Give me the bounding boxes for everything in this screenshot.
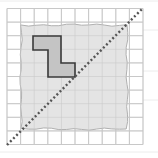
grid-diagram: [0, 0, 158, 158]
